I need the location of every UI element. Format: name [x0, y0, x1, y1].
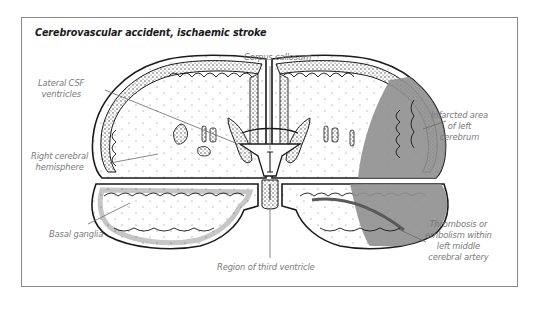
- right-basal-region: [92, 184, 258, 249]
- right-cerebral-hemisphere: [92, 55, 266, 178]
- label-infarcted-area: Infarcted area of left cerebrum: [431, 110, 488, 143]
- third-ventricle-region: [262, 180, 278, 209]
- label-right-cerebral-hemisphere: Right cerebral hemisphere: [31, 151, 88, 173]
- label-thrombosis-embolism: Thrombosis or embolism within left middl…: [425, 219, 492, 263]
- left-cerebral-hemisphere: [272, 55, 450, 180]
- label-lateral-csf-ventricles: Lateral CSF ventricles: [38, 78, 84, 100]
- label-region-third-ventricle: Region of third ventricle: [217, 262, 315, 273]
- figure-canvas: Cerebrovascular accident, ischaemic stro…: [0, 0, 539, 312]
- label-corpus-callosum: Corpus callosum: [244, 52, 311, 63]
- label-basal-ganglia: Basal ganglia: [49, 229, 103, 240]
